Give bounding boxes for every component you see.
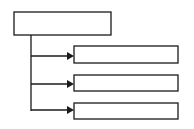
arrowhead-icon <box>67 106 74 114</box>
child-box-1 <box>74 46 178 63</box>
tree-diagram <box>0 0 194 129</box>
child-box-3 <box>74 103 178 119</box>
arrowhead-icon <box>67 80 74 88</box>
arrowhead-icon <box>67 52 74 60</box>
child-box-2 <box>74 75 178 91</box>
root-box <box>14 12 111 35</box>
